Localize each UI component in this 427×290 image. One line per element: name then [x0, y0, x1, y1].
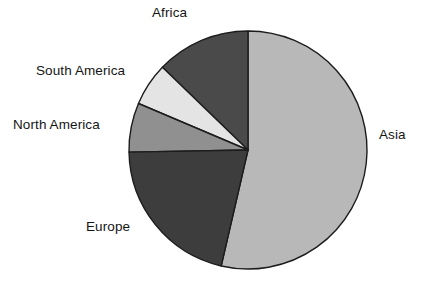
pie-chart-canvas: [0, 0, 427, 290]
pie-label-europe: Europe: [86, 220, 130, 234]
pie-label-south-america: South America: [36, 64, 125, 78]
pie-label-africa: Africa: [152, 6, 187, 20]
pie-label-north-america: North America: [13, 118, 100, 132]
pie-chart: Africa South America North America Europ…: [0, 0, 427, 290]
pie-label-asia: Asia: [379, 128, 406, 142]
pie-slices-group: [129, 31, 367, 269]
